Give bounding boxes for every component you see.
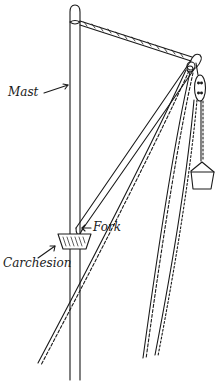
pulley-block bbox=[195, 63, 206, 101]
mast-label: Mast bbox=[8, 86, 38, 98]
stay-rope bbox=[70, 21, 192, 62]
mast bbox=[70, 5, 80, 380]
fork-pointer-arrow bbox=[82, 225, 91, 231]
mast-diagram bbox=[0, 0, 219, 389]
yard bbox=[76, 54, 201, 234]
fork-label: Fork bbox=[93, 221, 121, 233]
carchesion bbox=[58, 234, 91, 249]
mast-pointer-arrow bbox=[44, 84, 68, 93]
bucket-rope bbox=[201, 101, 203, 161]
hauling-rope-middle bbox=[143, 72, 193, 359]
bucket bbox=[191, 162, 214, 189]
carchesion-label: Carchesion bbox=[3, 257, 72, 269]
